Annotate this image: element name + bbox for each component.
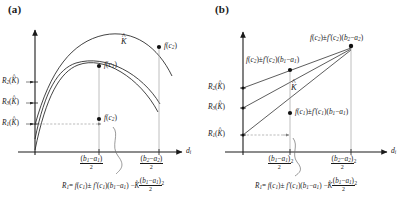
figure-root: (a): [0, 0, 410, 201]
xlabel-2: (b2−a2)22: [331, 155, 356, 170]
ydot-r3: [241, 106, 244, 109]
line-upper: [243, 48, 351, 88]
panel-b-formula: R1= f(c1)± f′(c1)(b1−a1) −K(b1−a1)22: [255, 178, 357, 192]
point-label-f-c2: f(c2): [104, 114, 117, 122]
dot-top: [288, 68, 292, 72]
ylabel-r3: R3(K): [208, 103, 225, 111]
panel-a-graphics: [0, 0, 205, 201]
ydot-r2: [241, 86, 244, 89]
formula-leader: [293, 138, 301, 176]
x-axis-name: di: [186, 146, 191, 155]
ylabel-r1: R1(K): [208, 130, 225, 138]
xlabel-1: (b1−a1)22: [268, 155, 293, 170]
curve-label-khat: K: [121, 38, 127, 46]
panel-b: (b): [205, 0, 410, 201]
point-label-low: f(c1)±f′(c1)(b1−a1): [295, 108, 348, 116]
xlabel-1: (b1−a1)2: [80, 155, 103, 170]
ylabel-r2: R2(K): [208, 83, 225, 91]
x-axis-name: di: [391, 146, 396, 155]
ylabel-r3: R3(K): [2, 98, 19, 106]
dot-f-c2: [97, 117, 101, 121]
formula-leader: [113, 127, 122, 174]
ylabel-r2: R2(K): [2, 77, 19, 85]
point-label-f-c1: f(c1): [104, 61, 117, 69]
xlabel-2: (b2−a2)2: [140, 155, 163, 170]
dot-f-c1: [97, 64, 101, 68]
dot-low: [288, 111, 292, 115]
point-label-f-c3: f(c2): [164, 42, 177, 50]
panel-a: (a): [0, 0, 205, 201]
panel-a-formula: R1= f(c1)± f′(c1)(b1−a1) −K(b1−a1)22: [62, 178, 164, 192]
curve-middle: [35, 61, 160, 139]
dot-right: [349, 44, 353, 48]
ydot-r1: [241, 133, 244, 136]
curve-lower: [35, 63, 158, 150]
point-label-mid: f(c2)±f′(c2)(b1−a1): [246, 56, 299, 64]
panel-b-graphics: [205, 0, 410, 201]
curve-label-khat: K: [291, 84, 297, 92]
point-label-top: f(c2)±f′(c2)(b2−a2): [310, 34, 363, 42]
ylabel-r1: R1(K): [2, 119, 19, 127]
dot-f-c3: [157, 45, 161, 49]
